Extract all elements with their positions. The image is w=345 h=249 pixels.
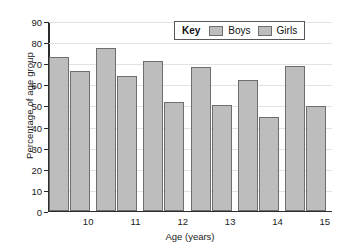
x-tick-label: 12: [178, 216, 189, 227]
bar-boys-14: [238, 80, 258, 211]
bar-girls-12: [164, 102, 184, 211]
legend-entry-boys: Boys: [209, 25, 250, 36]
x-tick-label: 13: [225, 216, 236, 227]
y-tick-mark: [44, 170, 48, 171]
x-tick-label: 11: [131, 216, 141, 227]
bars-layer: [50, 22, 333, 211]
y-tick-mark: [44, 212, 48, 213]
legend-label-boys: Boys: [228, 25, 250, 36]
x-axis-title: Age (years): [48, 231, 332, 242]
legend-label-girls: Girls: [277, 25, 298, 36]
x-tick-label: 10: [83, 216, 94, 227]
bar-boys-15: [285, 66, 305, 211]
y-tick-mark: [44, 64, 48, 65]
bar-chart: Percentage of age group 0102030405060708…: [0, 0, 345, 249]
bar-girls-10: [70, 71, 90, 210]
y-tick-label: 50: [31, 101, 42, 112]
y-tick-label: 80: [31, 38, 42, 49]
x-axis-line: [48, 211, 332, 213]
y-tick-label: 30: [31, 143, 42, 154]
bar-girls-14: [259, 117, 279, 211]
y-tick-label: 60: [31, 80, 42, 91]
y-tick-mark: [44, 106, 48, 107]
y-tick-mark: [44, 22, 48, 23]
y-tick-label: 70: [31, 59, 42, 70]
y-tick-label: 40: [31, 122, 42, 133]
y-tick-label: 0: [37, 207, 42, 218]
bar-girls-15: [306, 106, 326, 211]
bar-boys-13: [191, 67, 211, 211]
y-tick-label: 90: [31, 17, 42, 28]
y-tick-mark: [44, 43, 48, 44]
bar-boys-10: [49, 57, 69, 210]
y-tick-mark: [44, 128, 48, 129]
legend-swatch-girls: [258, 26, 272, 36]
y-tick-mark: [44, 85, 48, 86]
bar-boys-12: [143, 61, 163, 211]
y-tick-label: 10: [31, 185, 42, 196]
legend: Key Boys Girls: [174, 21, 305, 40]
bar-girls-13: [212, 105, 232, 211]
legend-swatch-boys: [209, 26, 223, 36]
legend-entry-girls: Girls: [258, 25, 298, 36]
x-tick-label: 14: [272, 216, 283, 227]
bar-girls-11: [117, 76, 137, 210]
plot-area: 0102030405060708090: [48, 22, 332, 212]
x-tick-label: 15: [320, 216, 331, 227]
legend-title: Key: [182, 25, 200, 36]
y-tick-mark: [44, 149, 48, 150]
y-tick-mark: [44, 191, 48, 192]
y-tick-label: 20: [31, 164, 42, 175]
bar-boys-11: [96, 48, 116, 211]
